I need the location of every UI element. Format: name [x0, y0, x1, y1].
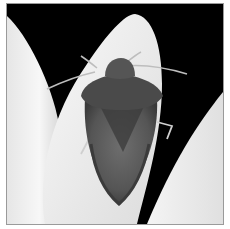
shield-bug-photo	[7, 4, 223, 224]
photo-frame	[6, 3, 224, 225]
